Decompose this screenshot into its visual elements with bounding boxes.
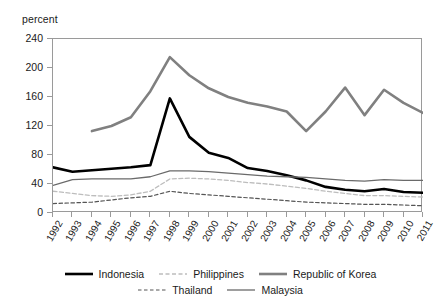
legend-swatch-icon [137, 285, 167, 295]
legend-label: Thailand [172, 285, 212, 296]
legend-row: ThailandMalaysia [0, 282, 440, 298]
x-tick-label: 2004 [279, 219, 299, 243]
x-tick-label: 1993 [64, 219, 84, 243]
legend-item-republic-of-korea[interactable]: Republic of Korea [258, 269, 376, 280]
x-tick-mark [71, 212, 72, 217]
x-tick-mark [305, 212, 306, 217]
legend-item-philippines[interactable]: Philippines [158, 269, 244, 280]
x-tick-mark [130, 212, 131, 217]
y-tick-label: 200 [25, 62, 43, 73]
x-tick-label: 1998 [162, 219, 182, 243]
x-tick-mark [188, 212, 189, 217]
x-tick-mark [286, 212, 287, 217]
legend-label: Malaysia [261, 285, 302, 296]
y-tick-label: 80 [31, 149, 43, 160]
x-tick-mark [149, 212, 150, 217]
y-tick-label: 40 [31, 178, 43, 189]
x-tick-label: 1994 [84, 219, 104, 243]
x-tick-mark [91, 212, 92, 217]
x-tick-mark [383, 212, 384, 217]
series-line-thailand [53, 191, 423, 206]
legend-row: IndonesiaPhilippinesRepublic of Korea [0, 266, 440, 282]
x-tick-label: 1997 [142, 219, 162, 243]
x-tick-label: 2000 [201, 219, 221, 243]
x-tick-mark [110, 212, 111, 217]
y-tick-label: 160 [25, 91, 43, 102]
x-tick-label: 2003 [259, 219, 279, 243]
y-axis-unit-label: percent [22, 13, 58, 25]
legend-item-malaysia[interactable]: Malaysia [226, 285, 302, 296]
legend-label: Philippines [193, 269, 244, 280]
x-tick-label: 1999 [181, 219, 201, 243]
x-tick-mark [325, 212, 326, 217]
x-tick-mark [208, 212, 209, 217]
plot-area [52, 38, 422, 212]
y-tick-label: 120 [25, 120, 43, 131]
x-tick-label: 2008 [356, 219, 376, 243]
x-tick-mark [422, 212, 423, 217]
x-tick-label: 2010 [395, 219, 415, 243]
x-tick-label: 2006 [318, 219, 338, 243]
x-tick-mark [227, 212, 228, 217]
x-tick-mark [169, 212, 170, 217]
x-tick-label: 1992 [45, 219, 65, 243]
series-lines [53, 39, 423, 213]
x-tick-label: 1995 [103, 219, 123, 243]
series-line-malaysia [53, 171, 423, 186]
x-tick-label: 2009 [376, 219, 396, 243]
legend-swatch-icon [226, 285, 256, 295]
legend-label: Indonesia [99, 269, 145, 280]
x-tick-mark [364, 212, 365, 217]
legend-item-indonesia[interactable]: Indonesia [64, 269, 145, 280]
x-tick-label: 2002 [240, 219, 260, 243]
y-axis: 04080120160200240 [0, 38, 52, 212]
chart-legend: IndonesiaPhilippinesRepublic of KoreaTha… [0, 266, 440, 298]
x-tick-label: 2011 [415, 219, 434, 243]
legend-swatch-icon [64, 269, 94, 279]
legend-label: Republic of Korea [293, 269, 376, 280]
series-line-republic-of-korea [92, 57, 423, 131]
legend-item-thailand[interactable]: Thailand [137, 285, 212, 296]
x-tick-mark [266, 212, 267, 217]
x-tick-mark [344, 212, 345, 217]
legend-swatch-icon [158, 269, 188, 279]
x-tick-mark [403, 212, 404, 217]
x-tick-label: 1996 [123, 219, 143, 243]
y-tick-label: 240 [25, 33, 43, 44]
legend-swatch-icon [258, 269, 288, 279]
x-tick-label: 2007 [337, 219, 357, 243]
x-tick-mark [52, 212, 53, 217]
line-chart: percent 04080120160200240 19921993199419… [0, 0, 440, 302]
x-tick-label: 2001 [220, 219, 240, 243]
y-tick-label: 0 [37, 207, 43, 218]
x-axis: 1992199319941995199619971998199920002001… [52, 212, 422, 272]
x-tick-mark [247, 212, 248, 217]
x-tick-label: 2005 [298, 219, 318, 243]
